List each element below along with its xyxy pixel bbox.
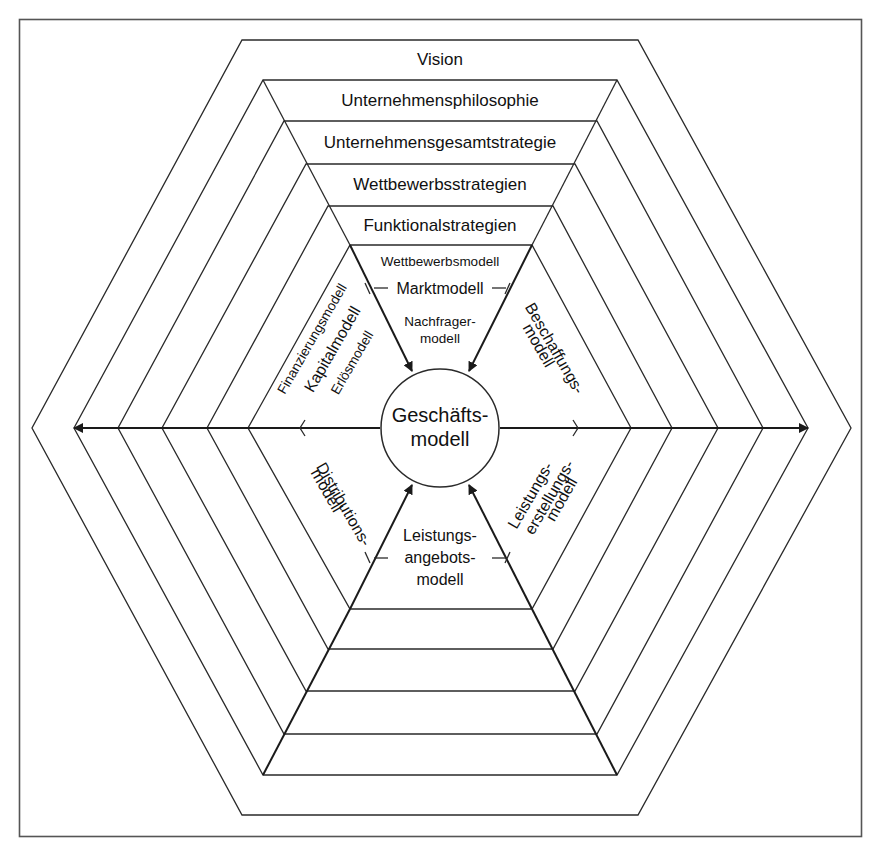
layer-unternehmensphilosophie: Unternehmensphilosophie xyxy=(341,91,539,110)
layer-wettbewerbsstrategien: Wettbewerbsstrategien xyxy=(353,175,527,194)
label-leistungsangebot-line3: modell xyxy=(416,571,463,588)
label-leistungsangebot-line1: Leistungs- xyxy=(403,527,477,544)
sector-leistungsangebot: Leistungs- angebots- modell xyxy=(403,527,477,588)
sector-beschaffung: Beschaffungs- modell xyxy=(520,300,588,397)
sector-kapital: Finanzierungsmodell Kapitalmodell Erlösm… xyxy=(274,281,376,397)
layer-vision: Vision xyxy=(417,50,463,69)
center-label-line1: Geschäfts- xyxy=(392,404,489,426)
business-model-hexagon-diagram: Geschäfts- modell Vision Unternehmensphi… xyxy=(0,0,877,854)
sector-markt: Wettbewerbsmodell Marktmodell Nachfrager… xyxy=(381,254,499,346)
strategy-layers: Vision Unternehmensphilosophie Unternehm… xyxy=(324,50,556,235)
layer-funktionalstrategien: Funktionalstrategien xyxy=(363,216,516,235)
label-nachfragermodell-line2: modell xyxy=(420,331,460,346)
label-leistungsangebot-line2: angebots- xyxy=(404,549,475,566)
sector-leistungserstellung: Leistungs- erstellungs- modell xyxy=(504,457,580,537)
center-label-line2: modell xyxy=(411,428,470,450)
label-wettbewerbsmodell: Wettbewerbsmodell xyxy=(381,254,499,269)
label-nachfragermodell-line1: Nachfrager- xyxy=(404,314,475,329)
layer-unternehmensgesamtstrategie: Unternehmensgesamtstrategie xyxy=(324,133,556,152)
sector-distribution: Distributions- modell xyxy=(308,460,375,549)
center-node: Geschäfts- modell xyxy=(381,369,499,487)
label-marktmodell: Marktmodell xyxy=(396,280,483,297)
